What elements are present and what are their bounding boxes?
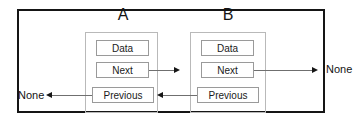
connector-a-next-line	[149, 70, 176, 71]
connector-a-previous-arrowhead-icon	[46, 92, 52, 98]
connector-b-next-arrowhead-icon	[312, 67, 318, 73]
node-b-field-data: Data	[201, 40, 254, 56]
node-a-title: A	[113, 7, 133, 23]
node-a-field-next: Next	[96, 62, 149, 78]
terminal-none-left: None	[18, 90, 44, 101]
connector-a-previous-line	[50, 95, 92, 96]
connector-a-next-arrowhead-icon	[174, 67, 180, 73]
connector-b-previous-line	[160, 95, 197, 96]
node-a-field-data: Data	[96, 40, 149, 56]
connector-b-next-line	[254, 70, 314, 71]
node-a-field-previous: Previous	[92, 87, 154, 103]
node-b-field-next: Next	[201, 62, 254, 78]
diagram-canvas: A B Data Next Previous Data Next Previou…	[0, 0, 353, 121]
connector-b-previous-arrowhead-icon	[157, 92, 163, 98]
node-b-title: B	[218, 7, 238, 23]
diagram-outer-frame	[17, 9, 325, 113]
node-b-field-previous: Previous	[197, 87, 259, 103]
terminal-none-right: None	[326, 64, 352, 75]
